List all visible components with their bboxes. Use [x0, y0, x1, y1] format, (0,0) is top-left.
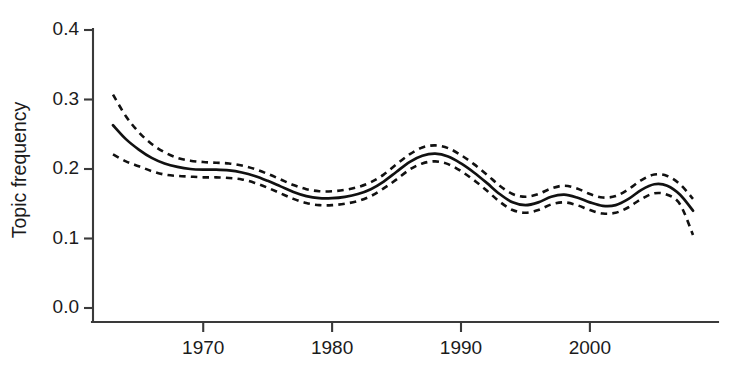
x-axis-group: 1970198019902000 — [92, 322, 718, 358]
x-tick-label: 1980 — [311, 337, 353, 358]
topic-frequency-line-chart: 0.00.10.20.30.4 1970198019902000 Topic f… — [0, 0, 733, 385]
y-tick-label: 0.3 — [53, 88, 79, 109]
x-axis-ticks — [203, 322, 590, 332]
data-series-layer — [113, 95, 693, 235]
series-line-confidence — [113, 95, 693, 199]
series-line-fit — [113, 125, 693, 210]
y-tick-label: 0.4 — [53, 18, 80, 39]
y-tick-label: 0.2 — [53, 157, 79, 178]
chart-container: 0.00.10.20.30.4 1970198019902000 Topic f… — [0, 0, 733, 385]
y-tick-label: 0.0 — [53, 296, 79, 317]
x-tick-label: 1990 — [440, 337, 482, 358]
y-axis-title: Topic frequency — [8, 101, 30, 238]
y-axis-tick-labels: 0.00.10.20.30.4 — [53, 18, 80, 317]
x-tick-label: 1970 — [182, 337, 224, 358]
x-tick-label: 2000 — [569, 337, 611, 358]
y-tick-label: 0.1 — [53, 227, 79, 248]
y-axis-group: 0.00.10.20.30.4 — [53, 18, 93, 322]
y-axis-ticks — [84, 30, 93, 308]
x-axis-tick-labels: 1970198019902000 — [182, 337, 611, 358]
